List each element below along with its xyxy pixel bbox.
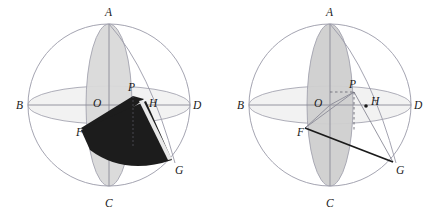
label-A: A: [325, 6, 334, 18]
label-P: P: [348, 78, 356, 90]
label-H: H: [370, 95, 380, 107]
label-G: G: [396, 164, 405, 176]
label-F: F: [75, 126, 84, 138]
label-P: P: [127, 81, 135, 93]
figure-container: A B C D O P H F G: [0, 0, 442, 219]
label-A: A: [104, 6, 113, 18]
label-C: C: [326, 197, 334, 209]
label-D: D: [413, 99, 423, 111]
label-B: B: [237, 99, 244, 111]
label-B: B: [16, 99, 23, 111]
label-H: H: [148, 97, 158, 109]
point-marker-H: [364, 104, 368, 108]
label-O: O: [314, 97, 323, 109]
label-D: D: [192, 99, 202, 111]
label-F: F: [296, 126, 305, 138]
label-C: C: [105, 197, 113, 209]
label-O: O: [93, 97, 102, 109]
label-G: G: [175, 164, 184, 176]
sphere-diagram-lines: A B C D O P H F G: [221, 0, 442, 219]
sphere-diagram-shaded: A B C D O P H F G: [0, 0, 221, 219]
